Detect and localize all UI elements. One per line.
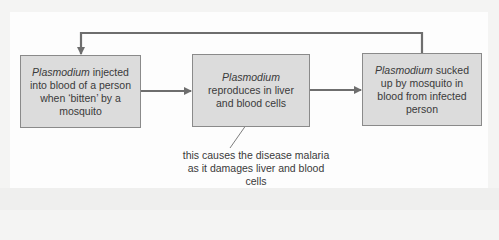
box-injected-text: Plasmodium injected into blood of a pers… [27,66,134,118]
box-reproduces-text: Plasmodium reproduces in liver and blood… [199,71,303,110]
box-sucked-up: Plasmodium sucked up by mosquito in bloo… [362,53,482,126]
box-reproduces: Plasmodium reproduces in liver and blood… [192,54,310,127]
loop-arrow [81,33,422,54]
annotation-text: this causes the disease malaria as it da… [176,149,336,188]
box-injected: Plasmodium injected into blood of a pers… [20,55,141,128]
box-sucked-up-text: Plasmodium sucked up by mosquito in bloo… [369,64,475,116]
